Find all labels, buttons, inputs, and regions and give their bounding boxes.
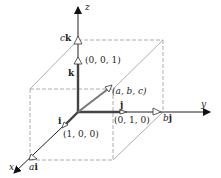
k-label: k	[68, 68, 75, 78]
ck-label: ck	[60, 33, 72, 43]
j-tip-icon	[120, 110, 127, 114]
y-axis-label: y	[200, 99, 207, 109]
j-label: j	[119, 100, 123, 110]
vector-diagram: z y x ck k (0, 0, 1) (a, b, c) j (0, 1, …	[0, 0, 221, 178]
i-label: i	[58, 116, 62, 126]
bj-tip-icon	[153, 108, 161, 115]
x-axis-label: x	[9, 162, 14, 172]
k-coords-label: (0, 0, 1)	[85, 55, 121, 65]
k-tip-icon	[74, 57, 82, 64]
i-coords-label: (1, 0, 0)	[63, 129, 99, 139]
bj-label: bj	[163, 113, 172, 123]
position-vector	[78, 89, 108, 112]
point-abc-label: (a, b, c)	[112, 86, 147, 96]
j-coords-label: (0, 1, 0)	[114, 115, 150, 125]
z-axis-label: z	[84, 2, 90, 12]
ai-label: ai	[29, 162, 38, 172]
